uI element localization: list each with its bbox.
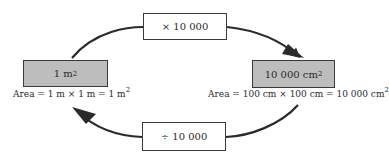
square-centimetre-unit: cm [303, 69, 318, 80]
divide-label: ÷ 10 000 [161, 131, 208, 142]
square-centimetre-value: 10 000 [265, 69, 300, 80]
square-metre-value: 1 [54, 68, 60, 79]
square-metre-box: 1 m2 [23, 60, 108, 87]
right-area-exponent: 2 [384, 86, 388, 94]
left-area-caption: Area = 1 m × 1 m = 1 m2 [13, 89, 125, 99]
left-area-exponent: 2 [126, 86, 130, 94]
multiply-label: × 10 000 [162, 21, 209, 32]
divide-box: ÷ 10 000 [142, 122, 226, 151]
square-metre-unit: m [63, 68, 72, 79]
arrowhead-left-icon [72, 107, 96, 124]
right-area-caption: Area = 100 cm × 100 cm = 10 000 cm2 [208, 89, 384, 99]
multiply-box: × 10 000 [143, 13, 227, 40]
arrow-multiply-arc [72, 27, 143, 58]
left-area-text: Area = 1 m × 1 m = 1 m [13, 89, 126, 99]
square-centimetre-box: 10 000 cm2 [252, 60, 335, 88]
right-area-text: Area = 100 cm × 100 cm = 10 000 cm [208, 89, 384, 99]
arrow-divide-arc [226, 105, 298, 137]
